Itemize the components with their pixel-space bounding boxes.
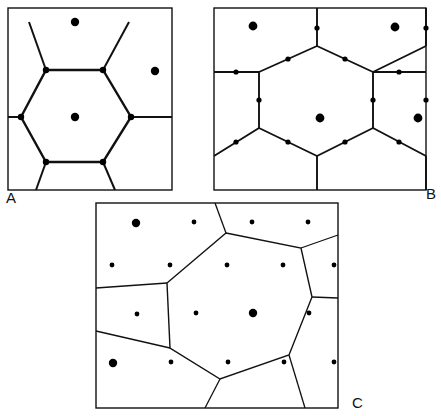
hexagon-vertex-dot <box>43 159 49 165</box>
grid-site-dot <box>192 220 197 225</box>
panel-b-label: B <box>426 185 436 202</box>
grid-site-dot <box>332 263 337 268</box>
bond-midpoint-dot <box>396 139 401 144</box>
bond-midpoint-dot <box>233 139 238 144</box>
lattice-site-dot <box>249 22 258 31</box>
grid-site-dot <box>306 220 311 225</box>
grid-site-dot <box>307 311 312 316</box>
grid-site-dot <box>281 263 286 268</box>
hexagon-vertex-dot <box>43 67 49 73</box>
panel-a-label: A <box>6 189 16 206</box>
figure-background <box>0 0 441 416</box>
bond-midpoint-dot <box>342 56 347 61</box>
hexagon-vertex-dot <box>100 159 106 165</box>
bond-midpoint-dot <box>423 97 428 102</box>
bond-midpoint-dot <box>285 56 290 61</box>
grid-site-dot <box>250 220 255 225</box>
emphasized-site-dot <box>132 219 140 227</box>
grid-site-dot <box>169 360 174 365</box>
lattice-site-dot <box>71 18 79 26</box>
bond-midpoint-dot <box>396 69 401 74</box>
hexagon-vertex-dot <box>18 114 24 120</box>
grid-site-dot <box>110 263 115 268</box>
grid-site-dot <box>194 311 199 316</box>
lattice-site-dot <box>414 114 423 123</box>
emphasized-site-dot <box>109 359 117 367</box>
panel-c-label: C <box>352 394 363 411</box>
figure-container: A B C <box>0 0 441 416</box>
hexagon-vertex-dot <box>100 67 106 73</box>
lattice-site-dot <box>71 113 79 121</box>
lattice-site-dot <box>316 114 325 123</box>
bond-midpoint-dot <box>370 97 375 102</box>
grid-site-dot <box>226 360 231 365</box>
bond-midpoint-dot <box>314 25 319 30</box>
bond-midpoint-dot <box>256 97 261 102</box>
grid-site-dot <box>332 360 337 365</box>
grid-site-dot <box>135 312 140 317</box>
lattice-site-dot <box>391 23 400 32</box>
lattice-site-dot <box>151 67 159 75</box>
grid-site-dot <box>225 263 230 268</box>
bond-midpoint-dot <box>423 25 428 30</box>
bond-midpoint-dot <box>233 69 238 74</box>
grid-site-dot <box>282 360 287 365</box>
bond-midpoint-dot <box>342 139 347 144</box>
grid-site-dot <box>168 263 173 268</box>
diagram-svg: A B C <box>0 0 441 416</box>
bond-midpoint-dot <box>285 139 290 144</box>
emphasized-site-dot <box>249 309 257 317</box>
hexagon-vertex-dot <box>128 114 134 120</box>
